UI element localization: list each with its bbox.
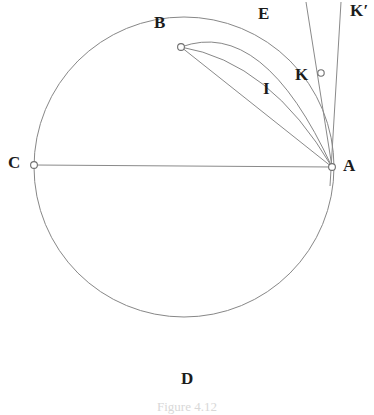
vertex-marker-b xyxy=(178,44,185,51)
vertex-marker-k xyxy=(318,70,324,76)
segment-b-to-a xyxy=(181,47,332,167)
ray-a-to-k-prime xyxy=(330,2,341,186)
point-label-a: A xyxy=(343,157,355,174)
arc-e-outer xyxy=(181,42,332,167)
region-label-i: I xyxy=(263,80,270,97)
region-label-e: E xyxy=(258,5,270,22)
vertex-marker-a xyxy=(329,164,336,171)
figure-caption: Figure 4.12 xyxy=(0,399,374,415)
chord-c-to-a xyxy=(34,165,332,167)
point-label-k: K xyxy=(295,66,308,83)
point-label-d: D xyxy=(181,370,193,387)
point-label-c: C xyxy=(8,154,20,171)
point-label-b: B xyxy=(154,14,166,31)
vertex-marker-c xyxy=(31,162,38,169)
point-label-k-prime: K′ xyxy=(350,2,368,19)
